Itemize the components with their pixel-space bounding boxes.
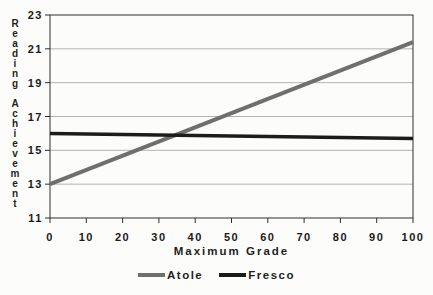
- x-tick-label: 90: [369, 231, 384, 243]
- legend-swatch-atole: [138, 273, 165, 277]
- x-tick-label: 0: [46, 231, 54, 243]
- y-tick-label: 13: [28, 178, 43, 190]
- x-tick-label: 80: [333, 231, 348, 243]
- legend-item-fresco: Fresco: [219, 269, 295, 281]
- series-line-atole: [50, 42, 413, 184]
- x-tick-label: 20: [115, 231, 130, 243]
- legend-label: Atole: [167, 269, 203, 281]
- chart-svg: 111315171921230102030405060708090100: [0, 0, 433, 260]
- x-tick-label: 10: [79, 231, 94, 243]
- x-tick-label: 40: [188, 231, 203, 243]
- y-tick-label: 19: [28, 77, 43, 89]
- legend-swatch-fresco: [219, 273, 246, 277]
- y-tick-label: 11: [28, 212, 43, 224]
- series-line-fresco: [50, 133, 413, 138]
- x-tick-label: 30: [151, 231, 166, 243]
- x-tick-label: 60: [260, 231, 275, 243]
- y-tick-label: 23: [28, 9, 43, 21]
- legend: AtoleFresco: [0, 269, 433, 281]
- x-tick-label: 70: [296, 231, 311, 243]
- y-tick-label: 21: [28, 43, 43, 55]
- x-tick-label: 100: [402, 231, 425, 243]
- x-tick-label: 50: [224, 231, 239, 243]
- y-tick-label: 15: [28, 144, 43, 156]
- legend-item-atole: Atole: [138, 269, 203, 281]
- x-axis-title: Maximum Grade: [50, 245, 413, 257]
- legend-label: Fresco: [248, 269, 295, 281]
- line-chart-figure: ReadingAchievement 111315171921230102030…: [0, 0, 433, 295]
- y-tick-label: 17: [28, 111, 43, 123]
